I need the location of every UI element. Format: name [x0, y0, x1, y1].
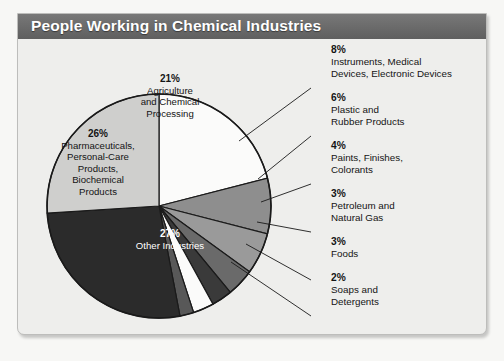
callout-instruments-line1: Instruments, Medical: [331, 56, 452, 68]
pie-label-pharmaceuticals-line4: Biochemical: [72, 174, 124, 185]
callout-paints: 4% Paints, Finishes, Colorants: [331, 140, 403, 175]
chart-header-bar: People Working in Chemical Industries: [18, 14, 486, 39]
pie-label-pharmaceuticals-line5: Products: [79, 186, 117, 197]
pie-label-agriculture-line3: Processing: [146, 108, 193, 119]
pie-slice-other-industries[interactable]: [47, 206, 180, 318]
callout-petroleum-line1: Petroleum and: [331, 200, 395, 212]
leader-line-plastic-top: [258, 136, 311, 179]
callout-plastic-line1: Plastic and: [331, 104, 405, 116]
pie-label-other-industries-pct: 27%: [160, 228, 180, 239]
callout-paints-line1: Paints, Finishes,: [331, 152, 403, 164]
page-title: People Working in Chemical Industries: [31, 17, 321, 35]
callout-plastic-pct: 6%: [331, 92, 405, 104]
callout-paints-line2: Colorants: [331, 164, 403, 176]
callout-foods-line1: Foods: [331, 248, 358, 260]
callout-petroleum-pct: 3%: [331, 188, 395, 200]
pie-label-pharmaceuticals-pct: 26%: [88, 128, 108, 139]
pie-label-other-industries: 27% Other Industries: [110, 228, 230, 251]
callout-instruments: 8% Instruments, Medical Devices, Electro…: [331, 44, 452, 79]
callout-plastic: 6% Plastic and Rubber Products: [331, 92, 405, 127]
callout-soaps-line1: Soaps and: [331, 284, 379, 296]
pie-chart-plot-area: 21% Agriculture and Chemical Processing …: [18, 39, 486, 335]
callout-foods: 3% Foods: [331, 236, 358, 260]
callout-soaps-pct: 2%: [331, 272, 379, 284]
callout-plastic-line2: Rubber Products: [331, 116, 405, 128]
callout-instruments-pct: 8%: [331, 44, 452, 56]
callout-foods-pct: 3%: [331, 236, 358, 248]
pie-label-pharmaceuticals: 26% Pharmaceuticals, Personal-Care Produ…: [28, 128, 168, 198]
callout-paints-pct: 4%: [331, 140, 403, 152]
callout-soaps: 2% Soaps and Detergents: [331, 272, 379, 307]
pie-label-agriculture-line2: and Chemical: [141, 96, 200, 107]
leader-line-soaps-top: [231, 262, 311, 316]
pie-label-agriculture: 21% Agriculture and Chemical Processing: [110, 73, 230, 119]
pie-label-agriculture-line1: Agriculture: [147, 85, 193, 96]
pie-label-agriculture-pct: 21%: [160, 73, 180, 84]
pie-label-pharmaceuticals-line3: Products,: [78, 163, 119, 174]
leader-line-instruments-top: [239, 88, 311, 141]
page-background: People Working in Chemical Industries: [0, 0, 504, 361]
callout-petroleum-line2: Natural Gas: [331, 212, 395, 224]
chart-panel: People Working in Chemical Industries: [17, 13, 487, 335]
callout-soaps-line2: Detergents: [331, 296, 379, 308]
pie-label-pharmaceuticals-line1: Pharmaceuticals,: [61, 140, 135, 151]
callout-petroleum: 3% Petroleum and Natural Gas: [331, 188, 395, 223]
pie-label-pharmaceuticals-line2: Personal-Care: [67, 151, 129, 162]
callout-instruments-line2: Devices, Electronic Devices: [331, 68, 452, 80]
pie-label-other-industries-line1: Other Industries: [136, 240, 204, 251]
